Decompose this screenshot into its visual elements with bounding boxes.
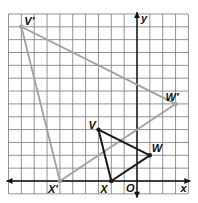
y-axis-down-arrow-icon — [134, 192, 140, 198]
vertex-label: W′ — [166, 91, 180, 103]
vertex-label: V′ — [24, 15, 35, 27]
origin-label: O — [126, 182, 135, 194]
vertex-label: W — [152, 142, 164, 154]
vertex-label: X′ — [47, 183, 59, 195]
x-axis-left-arrow-icon — [7, 178, 13, 184]
vertex-point — [96, 127, 100, 131]
y-axis-up-arrow-icon — [134, 12, 140, 18]
vertex-point — [109, 179, 113, 183]
vertex-point — [58, 179, 62, 183]
vertex-label: X — [99, 183, 108, 195]
grid-lines — [9, 14, 189, 194]
y-axis-label: y — [140, 12, 148, 24]
coordinate-plane: VWXV′W′X′yxO — [0, 0, 198, 203]
vertex-point — [19, 25, 23, 29]
x-axis-label: x — [179, 182, 187, 194]
vertex-label: V — [88, 119, 97, 131]
